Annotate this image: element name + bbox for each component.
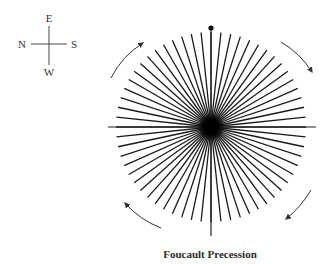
compass-label-bottom: W [44, 67, 54, 78]
swing-ray [211, 88, 298, 127]
arrow-top-right-icon [281, 42, 312, 72]
compass-label-right: S [71, 39, 77, 50]
swing-ray [124, 127, 211, 166]
swing-ray [124, 88, 211, 127]
arrow-bottom-right-icon [286, 190, 311, 219]
figure-caption: Foucault Precession [163, 248, 257, 260]
swing-ray [211, 127, 250, 214]
foucault-diagram [0, 0, 335, 264]
swing-ray [172, 127, 211, 214]
compass-label-left: N [18, 39, 26, 50]
arrow-bottom-left-icon [125, 203, 161, 228]
top-dot-marker [208, 25, 213, 30]
compass-cross [31, 26, 67, 65]
swing-ray [211, 127, 298, 166]
compass-label-top: E [46, 13, 53, 24]
swing-ray [172, 40, 211, 127]
center-dark-core [197, 113, 225, 141]
swing-ray [211, 40, 250, 127]
arrow-top-left-icon [111, 43, 143, 78]
